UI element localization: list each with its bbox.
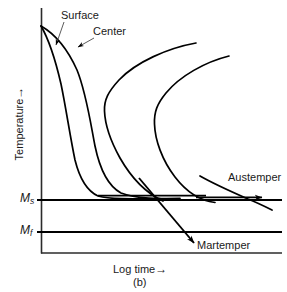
ms-symbol: M: [20, 191, 30, 205]
center-label: Center: [93, 26, 126, 37]
y-axis-title-text: Temperature: [13, 99, 25, 161]
ms-axis-label: Ms: [20, 192, 34, 206]
x-axis-title: Log time→: [113, 263, 166, 275]
surface-cooling-curve: [41, 26, 160, 199]
austemper-label: Austemper: [228, 172, 281, 183]
mf-symbol: M: [20, 223, 30, 237]
reference-lines: [37, 200, 282, 232]
figure-container: Surface Center Austemper Martemper Ms Mf…: [0, 0, 287, 292]
center-cooling-curve: [41, 26, 180, 199]
x-axis-arrow-icon: →: [155, 262, 166, 276]
x-axis-title-text: Log time: [113, 263, 155, 275]
transformation-finish-curve: [154, 56, 229, 203]
y-axis-arrow-icon: →: [12, 88, 26, 99]
martemper-label: Martemper: [197, 240, 250, 251]
figure-caption: (b): [133, 277, 146, 288]
surface-label: Surface: [61, 10, 99, 21]
ttt-curves: [104, 43, 229, 203]
transformation-start-curve: [104, 43, 196, 201]
cooling-curves: [41, 26, 180, 199]
mf-axis-label: Mf: [20, 224, 32, 238]
axis-lines: [41, 8, 282, 254]
y-axis-title: Temperature→: [13, 74, 25, 174]
mf-subscript: f: [30, 228, 32, 238]
ms-subscript: s: [30, 196, 34, 206]
center-leader-line: [78, 38, 94, 47]
